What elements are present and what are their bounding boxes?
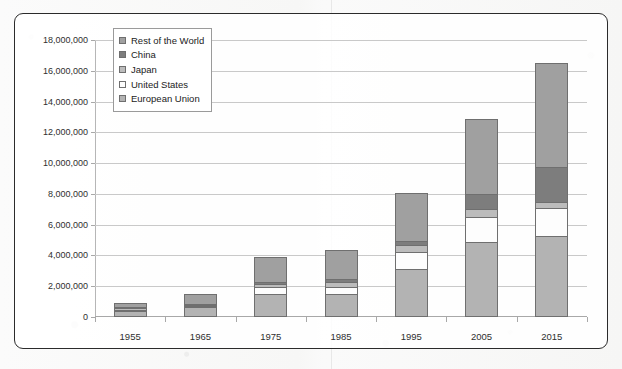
bar-segment xyxy=(535,236,568,317)
bar-segment xyxy=(254,294,287,317)
gridline xyxy=(95,194,587,195)
legend-swatch-icon xyxy=(119,51,126,58)
y-tick-label: 2,000,000 xyxy=(48,281,88,291)
bar-segment xyxy=(535,208,568,236)
legend-item[interactable]: Japan xyxy=(119,62,204,77)
gridline xyxy=(95,163,587,164)
legend-swatch-icon xyxy=(119,95,126,102)
y-tick-mark xyxy=(91,102,95,103)
legend-swatch-icon xyxy=(119,37,126,44)
stacked-bar xyxy=(325,250,358,317)
bar-segment xyxy=(395,245,428,252)
stacked-bar xyxy=(254,257,287,317)
bar-segment xyxy=(325,294,358,317)
x-tick-label: 1975 xyxy=(260,331,281,342)
legend-swatch-icon xyxy=(119,66,126,73)
legend-item[interactable]: China xyxy=(119,48,204,63)
bar-segment xyxy=(465,217,498,242)
bar-segment xyxy=(325,250,358,279)
y-tick-label: 8,000,000 xyxy=(48,189,88,199)
x-tick-label: 1995 xyxy=(401,331,422,342)
bar-segment xyxy=(395,252,428,269)
x-tick-label: 1965 xyxy=(190,331,211,342)
legend-item-label: China xyxy=(131,49,156,60)
y-tick-mark xyxy=(91,71,95,72)
chart-legend: Rest of the WorldChinaJapanUnited States… xyxy=(113,28,212,112)
bar-segment xyxy=(184,307,217,317)
legend-item-label: Japan xyxy=(131,64,157,75)
y-tick-mark xyxy=(91,286,95,287)
x-tick-mark xyxy=(95,317,96,322)
y-tick-mark xyxy=(91,225,95,226)
x-tick-mark xyxy=(165,317,166,322)
bar-segment xyxy=(395,269,428,317)
y-tick-mark xyxy=(91,255,95,256)
x-tick-label: 1985 xyxy=(330,331,351,342)
y-tick-mark xyxy=(91,40,95,41)
x-tick-label: 2005 xyxy=(471,331,492,342)
bar-segment xyxy=(325,287,358,294)
x-tick-label: 2015 xyxy=(541,331,562,342)
bar-segment xyxy=(535,167,568,202)
legend-item-label: European Union xyxy=(131,93,200,104)
y-tick-label: 10,000,000 xyxy=(43,158,88,168)
legend-swatch-icon xyxy=(119,81,126,88)
y-tick-label: 0 xyxy=(83,312,88,322)
bar-segment xyxy=(465,119,498,194)
bar-segment xyxy=(184,294,217,303)
y-tick-label: 18,000,000 xyxy=(43,35,88,45)
x-tick-label: 1955 xyxy=(120,331,141,342)
page-background: 02,000,0004,000,0006,000,0008,000,00010,… xyxy=(0,0,622,369)
y-tick-label: 6,000,000 xyxy=(48,220,88,230)
x-tick-mark xyxy=(587,317,588,322)
legend-item[interactable]: United States xyxy=(119,77,204,92)
stacked-bar xyxy=(535,63,568,317)
y-tick-label: 4,000,000 xyxy=(48,250,88,260)
gridline xyxy=(95,132,587,133)
y-tick-label: 14,000,000 xyxy=(43,97,88,107)
y-tick-mark xyxy=(91,132,95,133)
stacked-bar xyxy=(395,193,428,317)
legend-item[interactable]: European Union xyxy=(119,91,204,106)
y-tick-mark xyxy=(91,163,95,164)
legend-item-label: United States xyxy=(131,79,188,90)
legend-item-label: Rest of the World xyxy=(131,35,204,46)
bar-segment xyxy=(465,194,498,209)
legend-item[interactable]: Rest of the World xyxy=(119,33,204,48)
x-tick-mark xyxy=(517,317,518,322)
bar-segment xyxy=(254,287,287,294)
bar-segment xyxy=(395,193,428,241)
x-tick-mark xyxy=(446,317,447,322)
chart-card: 02,000,0004,000,0006,000,0008,000,00010,… xyxy=(14,13,608,349)
x-tick-mark xyxy=(376,317,377,322)
stacked-bar xyxy=(465,119,498,317)
bar-segment xyxy=(254,257,287,282)
y-tick-mark xyxy=(91,194,95,195)
x-tick-mark xyxy=(236,317,237,322)
bar-segment xyxy=(465,209,498,217)
stacked-bar xyxy=(114,303,147,317)
x-tick-mark xyxy=(306,317,307,322)
gridline xyxy=(95,225,587,226)
bar-segment xyxy=(114,311,147,317)
y-axis-line xyxy=(95,40,96,317)
bar-segment xyxy=(535,63,568,167)
y-tick-label: 12,000,000 xyxy=(43,127,88,137)
bar-segment xyxy=(465,242,498,317)
y-tick-label: 16,000,000 xyxy=(43,66,88,76)
stacked-bar xyxy=(184,294,217,317)
